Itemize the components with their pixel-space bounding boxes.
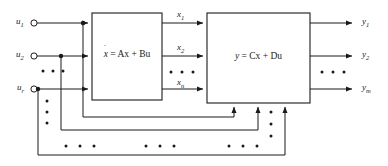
ellipsis-dot-outputs	[321, 71, 324, 74]
ellipsis-dot-inputs	[62, 70, 65, 73]
ellipsis-dot-bottom-rail	[79, 145, 82, 148]
ellipsis-dot-feedforward-left	[46, 122, 49, 125]
label-input-u1: u1	[16, 17, 24, 28]
input-terminal-u2	[31, 53, 37, 59]
diagram-canvas	[0, 0, 388, 166]
state-space-block-diagram: u1 u2 ur x1 x2 xn y1 y2 ym ̇x = Ax + Bu …	[0, 0, 388, 166]
ellipsis-dot-states	[181, 71, 184, 74]
ellipsis-dot-inputs	[42, 70, 45, 73]
ellipsis-dot-feedforward-left	[46, 111, 49, 114]
ellipsis-dot-inputs	[52, 70, 55, 73]
ellipsis-dot-states	[192, 71, 195, 74]
ellipsis-dot-bottom-rail	[93, 145, 96, 148]
ellipsis-dot-outputs	[332, 71, 335, 74]
block-label-output-equation: y = Cx + Du	[207, 52, 310, 62]
ellipsis-dot-bottom-rail	[228, 145, 231, 148]
ellipsis-dot-feedforward-right	[270, 123, 273, 126]
ellipsis-dot-bottom-rail	[159, 145, 162, 148]
ellipsis-dot-bottom-rail	[173, 145, 176, 148]
input-terminal-u1	[31, 20, 37, 26]
label-output-y2: y2	[362, 50, 369, 61]
ellipsis-dot-feedforward-right	[270, 135, 273, 138]
ellipsis-dot-bottom-rail	[65, 145, 68, 148]
label-input-u2: u2	[16, 50, 24, 61]
label-output-ym: ym	[362, 83, 371, 94]
ellipsis-dot-bottom-rail	[145, 145, 148, 148]
block-label-state-equation: ̇x = Ax + Bu	[92, 50, 162, 60]
ellipsis-dot-states	[170, 71, 173, 74]
label-output-y1: y1	[362, 17, 369, 28]
ellipsis-dot-outputs	[343, 71, 346, 74]
ellipsis-dot-bottom-rail	[242, 145, 245, 148]
label-state-x1: x1	[177, 10, 184, 21]
ellipsis-dot-bottom-rail	[256, 145, 259, 148]
label-state-x2: x2	[177, 43, 184, 54]
ellipsis-dot-feedforward-right	[270, 111, 273, 114]
label-input-ur: ur	[17, 83, 24, 94]
label-state-xn: xn	[177, 78, 184, 89]
ellipsis-dot-feedforward-left	[46, 100, 49, 103]
